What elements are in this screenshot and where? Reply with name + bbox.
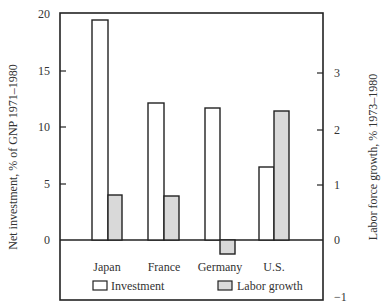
bar-japan-labor	[108, 195, 122, 240]
category-germany: Germany	[198, 260, 243, 274]
left-axis-title: Net investment, % of GNP 1971–1980	[6, 64, 20, 250]
left-tick-10: 10	[38, 120, 50, 134]
right-tick-0: 0	[334, 233, 340, 247]
bar-france-investment	[148, 103, 164, 240]
category-france: France	[148, 260, 181, 274]
legend-label-investment: Investment	[111, 279, 165, 293]
right-axis-ticks	[317, 73, 323, 185]
bar-germany-investment	[205, 108, 220, 240]
bar-us-labor	[274, 111, 289, 240]
bars	[92, 20, 289, 254]
right-tick-1: 1	[334, 178, 340, 192]
right-axis-title: Labor force growth, % 1973–1980	[366, 74, 380, 240]
chart-figure: 0 5 10 15 20 −1 0 1 2 3 Net investment, …	[0, 0, 386, 308]
bar-france-labor	[164, 196, 179, 240]
legend: Investment Labor growth	[93, 279, 303, 293]
right-tick-3: 3	[334, 66, 340, 80]
left-axis-ticks	[60, 71, 66, 184]
category-japan: Japan	[93, 260, 120, 274]
legend-swatch-labor	[218, 281, 232, 290]
left-tick-20: 20	[38, 7, 50, 21]
bar-germany-labor	[220, 240, 235, 254]
right-axis-labels: −1 0 1 2 3	[334, 66, 347, 304]
left-tick-0: 0	[44, 233, 50, 247]
right-tick-minus1: −1	[334, 290, 347, 304]
bar-japan-investment	[92, 20, 108, 240]
right-tick-2: 2	[334, 123, 340, 137]
category-us: U.S.	[263, 260, 284, 274]
left-tick-15: 15	[38, 64, 50, 78]
left-axis-labels: 0 5 10 15 20	[38, 7, 50, 247]
left-tick-5: 5	[44, 177, 50, 191]
legend-swatch-investment	[93, 281, 107, 290]
legend-label-labor: Labor growth	[237, 279, 303, 293]
bar-us-investment	[259, 167, 274, 240]
category-labels: Japan France Germany U.S.	[93, 260, 284, 274]
